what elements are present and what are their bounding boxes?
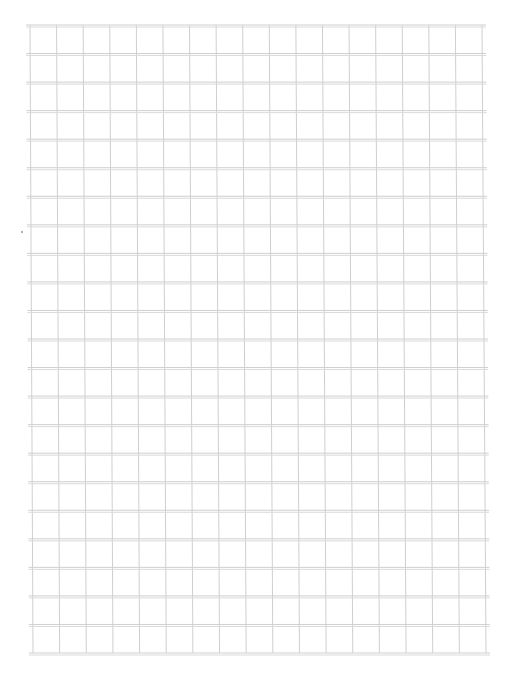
horizontal-grid-lines [26, 25, 490, 655]
stray-dot [21, 231, 23, 233]
grid-paper-sheet [0, 0, 515, 679]
